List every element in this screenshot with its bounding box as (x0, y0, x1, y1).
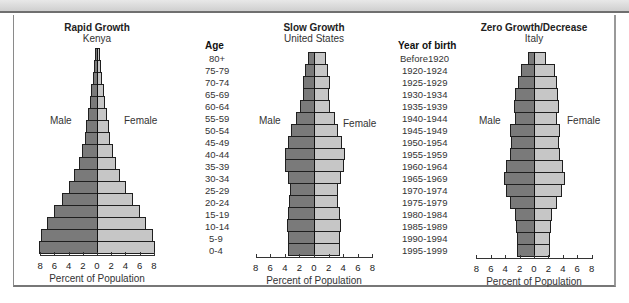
female-label: Female (567, 115, 600, 126)
birth-year-label: 1920-1924 (398, 65, 478, 77)
x-axis-tick (314, 254, 315, 258)
male-bar (288, 243, 314, 256)
chart-subtitle: United States (244, 33, 384, 44)
age-group-label: 35-39 (205, 161, 245, 173)
birth-year-label: 1975-1979 (398, 197, 478, 209)
x-axis-tick (97, 252, 98, 256)
top-divider (0, 0, 629, 13)
x-tick-label: 8 (365, 262, 379, 273)
birth-year-label: Before1920 (398, 53, 478, 65)
center-axis-line (314, 52, 315, 256)
x-axis-title: Percent of Population (37, 273, 157, 284)
birth-year-label: 1935-1939 (398, 101, 478, 113)
birth-year-label: 1990-1994 (398, 233, 478, 245)
x-axis-tick (505, 255, 506, 259)
birth-year-label: 1985-1989 (398, 221, 478, 233)
male-label: Male (479, 115, 501, 126)
chart-subtitle: Kenya (27, 33, 167, 44)
x-axis-tick (329, 254, 330, 258)
age-group-label: 10-14 (205, 221, 245, 233)
x-axis-tick (372, 254, 373, 258)
x-tick-label: 2 (104, 260, 118, 271)
x-tick-label: 4 (498, 263, 512, 274)
age-group-label: 55-59 (205, 113, 245, 125)
x-tick-label: 0 (527, 263, 541, 274)
age-group-label: 25-29 (205, 185, 245, 197)
male-label: Male (259, 115, 281, 126)
birth-year-label: 1955-1959 (398, 149, 478, 161)
x-tick-label: 6 (133, 260, 147, 271)
x-tick-label: 2 (292, 262, 306, 273)
x-tick-label: 8 (585, 263, 599, 274)
x-axis-tick (154, 252, 155, 256)
x-tick-label: 6 (351, 262, 365, 273)
male-label: Male (50, 115, 72, 126)
age-group-label: 20-24 (205, 197, 245, 209)
x-tick-label: 2 (513, 263, 527, 274)
x-tick-label: 0 (90, 260, 104, 271)
age-group-label: 75-79 (205, 65, 245, 77)
age-header: Age (205, 40, 245, 53)
birth-year-label: 1930-1934 (398, 89, 478, 101)
x-axis-title: Percent of Population (254, 275, 374, 286)
birth-year-label: 1945-1949 (398, 125, 478, 137)
x-tick-label: 6 (484, 263, 498, 274)
birth-year-label: 1995-1999 (398, 245, 478, 257)
year-of-birth-column: Year of birth Before19201920-19241925-19… (398, 40, 478, 257)
age-group-label: 80+ (205, 53, 245, 65)
age-group-label: 65-69 (205, 89, 245, 101)
x-axis-tick (125, 252, 126, 256)
chart-title: Rapid Growth (27, 22, 167, 33)
x-tick-label: 4 (556, 263, 570, 274)
x-axis-tick (83, 252, 84, 256)
x-tick-label: 2 (322, 262, 336, 273)
female-label: Female (124, 115, 157, 126)
x-tick-label: 4 (278, 262, 292, 273)
chart-title: Zero Growth/Decrease (464, 22, 604, 33)
x-axis-tick (285, 254, 286, 258)
x-axis-tick (270, 254, 271, 258)
birth-year-label: 1970-1974 (398, 185, 478, 197)
age-group-label: 45-49 (205, 137, 245, 149)
x-axis-tick (548, 255, 549, 259)
x-tick-label: 0 (307, 262, 321, 273)
x-axis-title: Percent of Population (474, 276, 594, 287)
x-tick-label: 4 (118, 260, 132, 271)
chart-title: Slow Growth (244, 22, 384, 33)
birth-year-label: 1940-1944 (398, 113, 478, 125)
female-label: Female (343, 118, 376, 129)
age-group-label: 50-54 (205, 125, 245, 137)
birth-year-label: 1965-1969 (398, 173, 478, 185)
x-axis-tick (343, 254, 344, 258)
x-tick-label: 2 (541, 263, 555, 274)
birth-year-label: 1960-1964 (398, 161, 478, 173)
x-axis-tick (563, 255, 564, 259)
x-axis-tick (520, 255, 521, 259)
age-label-column: Age 80+75-7970-7465-6960-6455-5950-5445-… (205, 40, 245, 257)
x-axis-tick (577, 255, 578, 259)
age-group-label: 15-19 (205, 209, 245, 221)
birth-year-label: 1925-1929 (398, 77, 478, 89)
x-axis-tick (54, 252, 55, 256)
x-axis-tick (69, 252, 70, 256)
x-tick-label: 4 (336, 262, 350, 273)
x-axis-tick (592, 255, 593, 259)
x-tick-label: 2 (76, 260, 90, 271)
x-axis-tick (534, 255, 535, 259)
x-tick-label: 6 (570, 263, 584, 274)
x-tick-label: 8 (469, 263, 483, 274)
birth-year-label: 1980-1984 (398, 209, 478, 221)
chart-subtitle: Italy (464, 33, 604, 44)
x-axis-tick (140, 252, 141, 256)
x-tick-label: 6 (47, 260, 61, 271)
birth-year-label: 1950-1954 (398, 137, 478, 149)
x-tick-label: 8 (33, 260, 47, 271)
center-axis-line (97, 48, 98, 254)
x-axis-tick (476, 255, 477, 259)
x-tick-label: 4 (62, 260, 76, 271)
x-axis-tick (299, 254, 300, 258)
age-group-label: 0-4 (205, 245, 245, 257)
age-group-label: 40-44 (205, 149, 245, 161)
x-axis-tick (111, 252, 112, 256)
female-bar (98, 241, 155, 254)
